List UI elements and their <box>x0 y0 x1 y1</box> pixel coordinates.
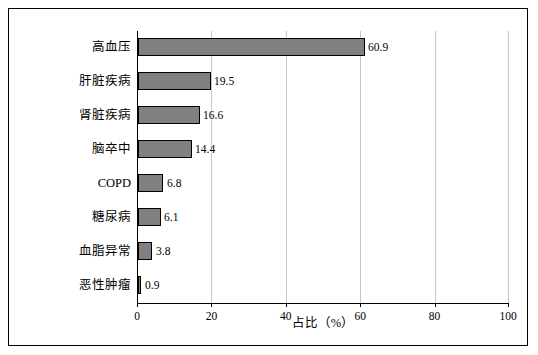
plot-area: 60.9 19.5 16.6 14.4 6.8 6.1 <box>137 31 509 303</box>
gridline <box>435 31 436 303</box>
x-tick <box>360 303 361 307</box>
bar[interactable] <box>138 38 365 56</box>
gridline <box>508 31 509 303</box>
bar[interactable] <box>138 276 141 294</box>
x-axis-title: 占比（%） <box>137 315 509 331</box>
x-tick <box>137 303 138 307</box>
gridline <box>360 31 361 303</box>
gridline <box>286 31 287 303</box>
x-tick <box>435 303 436 307</box>
x-tick <box>508 303 509 307</box>
bar-value-label: 16.6 <box>203 107 223 123</box>
x-axis-line <box>137 303 509 304</box>
bar-value-label: 19.5 <box>214 73 234 89</box>
category-label: COPD <box>98 174 131 192</box>
bar-value-label: 6.8 <box>167 175 181 191</box>
bar[interactable] <box>138 242 152 260</box>
x-tick <box>211 303 212 307</box>
bar[interactable] <box>138 72 211 90</box>
bar[interactable] <box>138 208 161 226</box>
category-label: 糖尿病 <box>92 208 131 226</box>
bar-value-label: 6.1 <box>164 209 178 225</box>
category-axis-labels: 高血压 肝脏疾病 肾脏疾病 脑卒中 COPD 糖尿病 血脂异常 恶性肿瘤 <box>9 31 131 303</box>
bar[interactable] <box>138 174 163 192</box>
category-label: 肾脏疾病 <box>79 106 131 124</box>
bar-value-label: 60.9 <box>368 39 388 55</box>
category-label: 血脂异常 <box>79 242 131 260</box>
chart-root: 高血压 肝脏疾病 肾脏疾病 脑卒中 COPD 糖尿病 血脂异常 恶性肿瘤 60.… <box>0 0 538 355</box>
bar-value-label: 3.8 <box>156 243 170 259</box>
gridline <box>211 31 212 303</box>
category-label: 恶性肿瘤 <box>79 276 131 294</box>
bar-value-label: 14.4 <box>195 141 215 157</box>
category-label: 肝脏疾病 <box>79 72 131 90</box>
chart-frame: 高血压 肝脏疾病 肾脏疾病 脑卒中 COPD 糖尿病 血脂异常 恶性肿瘤 60.… <box>8 8 528 346</box>
bar[interactable] <box>138 140 192 158</box>
bar-value-label: 0.9 <box>145 277 159 293</box>
category-label: 高血压 <box>92 38 131 56</box>
category-label: 脑卒中 <box>92 140 131 158</box>
bar[interactable] <box>138 106 200 124</box>
x-tick <box>286 303 287 307</box>
